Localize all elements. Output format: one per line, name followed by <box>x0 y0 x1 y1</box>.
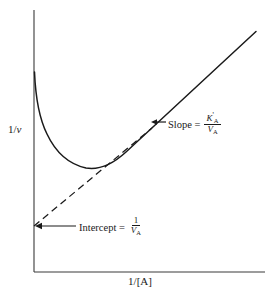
y-axis-label: 1/v <box>8 124 21 136</box>
x-axis-label: 1/[A] <box>128 276 152 288</box>
slope-denominator: VA <box>205 125 219 135</box>
slope-fraction: K'A VA <box>204 112 220 136</box>
slope-denominator-subscript: A <box>213 128 218 135</box>
kinetics-curve <box>35 32 257 169</box>
caption-partial <box>14 291 266 297</box>
y-axis-label-variable: v <box>17 123 22 135</box>
slope-numerator: K'A <box>204 112 220 125</box>
y-axis-label-text: 1/ <box>8 123 17 135</box>
figure-root: 1/v 1/[A] Slope = K'A VA Intercept = 1 V… <box>0 0 273 297</box>
slope-numerator-subscript: A <box>214 117 219 124</box>
intercept-arrow-icon <box>35 223 76 229</box>
intercept-denominator: VA <box>129 226 143 236</box>
plot-canvas <box>0 0 273 297</box>
intercept-fraction: 1 VA <box>129 216 143 236</box>
slope-annotation: Slope = K'A VA <box>168 113 221 137</box>
intercept-annotation: Intercept = 1 VA <box>79 217 143 237</box>
slope-arrow-icon <box>151 119 166 125</box>
intercept-label-text: Intercept = <box>79 222 125 233</box>
intercept-denominator-subscript: A <box>136 229 141 236</box>
slope-label-text: Slope = <box>168 119 200 130</box>
